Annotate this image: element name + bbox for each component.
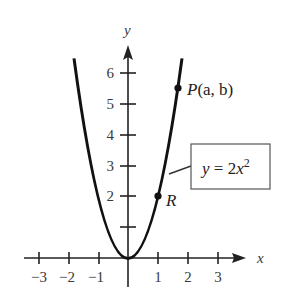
x-tick-label: 2 <box>184 269 192 285</box>
y-tick-label: 3 <box>107 158 115 174</box>
x-tick-label: 1 <box>154 269 162 285</box>
y-tick-label: 2 <box>107 188 115 204</box>
y-tick-label: 6 <box>107 65 115 81</box>
y-tick-label: 4 <box>107 127 115 143</box>
x-tick-label: −1 <box>88 269 104 285</box>
parabola-chart: −3 −2 −1 1 2 3 x 2 3 4 5 6 y P(a, b) R y <box>0 0 288 302</box>
point-r-label: R <box>165 191 177 210</box>
point-p-marker <box>174 84 181 91</box>
y-tick-label: 5 <box>107 96 115 112</box>
x-axis: −3 −2 −1 1 2 3 x <box>24 250 264 285</box>
x-axis-arrow-icon <box>232 253 246 263</box>
y-axis: 2 3 4 5 6 y <box>107 22 137 287</box>
x-axis-label: x <box>256 250 264 266</box>
point-r-marker <box>154 192 161 199</box>
y-axis-label: y <box>122 22 131 38</box>
equation-leader-line <box>169 166 191 174</box>
equation-label: y = 2x2 <box>200 156 250 178</box>
x-tick-label: −3 <box>31 269 47 285</box>
x-tick-label: −2 <box>59 269 75 285</box>
point-p-label: P(a, b) <box>186 80 233 99</box>
x-tick-label: 3 <box>214 269 222 285</box>
